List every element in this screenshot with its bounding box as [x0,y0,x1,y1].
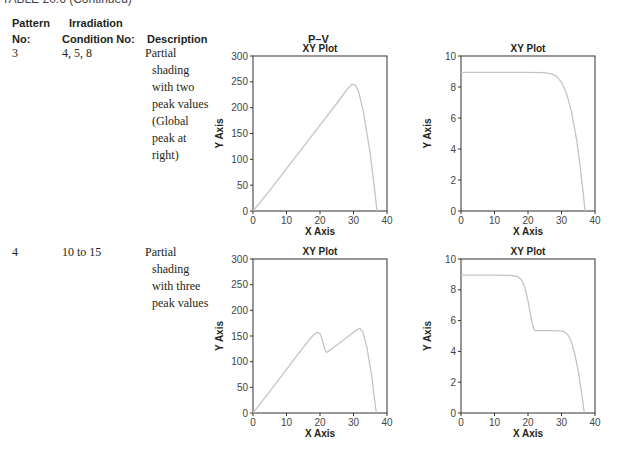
x-tick-label: 0 [250,417,256,428]
y-tick-label: 8 [450,82,456,93]
x-tick-label: 20 [314,215,326,226]
data-curve [461,72,585,211]
chart-title: XY Plot [303,43,338,54]
y-tick-label: 2 [450,175,456,186]
y-tick-label: 300 [231,51,248,62]
x-tick-label: 0 [458,215,464,226]
x-tick-label: 0 [458,417,464,428]
x-axis-label: X Axis [513,226,544,237]
y-tick-label: 2 [450,377,456,388]
x-tick-label: 20 [522,215,534,226]
x-tick-label: 20 [522,417,534,428]
y-tick-label: 150 [231,128,248,139]
chart-title: XY Plot [303,246,338,257]
x-tick-label: 10 [489,417,501,428]
y-tick-label: 150 [231,331,248,342]
chart-pattern4-iv: XY Plot0246810010203040X AxisY Axis [422,246,601,439]
x-tick-label: 40 [589,215,601,226]
y-tick-label: 6 [450,315,456,326]
x-tick-label: 10 [281,215,293,226]
chart-pattern4-pv: XY Plot050100150200250300010203040X Axis… [214,246,393,439]
x-tick-label: 10 [281,417,293,428]
y-tick-label: 10 [445,51,457,62]
y-tick-label: 4 [450,144,456,155]
y-tick-label: 100 [231,154,248,165]
x-tick-label: 30 [348,417,360,428]
data-curve [253,328,376,413]
chart-title: XY Plot [511,246,546,257]
plot-frame [461,259,595,413]
y-tick-label: 8 [450,284,456,295]
x-tick-label: 20 [314,417,326,428]
x-axis-label: X Axis [513,428,544,439]
x-axis-label: X Axis [305,428,336,439]
y-tick-label: 200 [231,305,248,316]
charts-canvas: XY Plot050100150200250300010203040X Axis… [0,0,631,452]
y-tick-label: 0 [242,206,248,217]
y-tick-label: 0 [450,408,456,419]
y-axis-label: Y Axis [422,321,433,351]
y-tick-label: 250 [231,76,248,87]
chart-title: XY Plot [511,43,546,54]
y-tick-label: 4 [450,346,456,357]
y-tick-label: 200 [231,102,248,113]
y-tick-label: 10 [445,254,457,265]
y-tick-label: 6 [450,113,456,124]
x-tick-label: 0 [250,215,256,226]
data-curve [461,275,584,413]
chart-pattern3-pv: XY Plot050100150200250300010203040X Axis… [214,43,393,237]
y-axis-label: Y Axis [214,118,225,148]
y-tick-label: 100 [231,356,248,367]
y-tick-label: 0 [450,206,456,217]
y-tick-label: 0 [242,408,248,419]
x-tick-label: 40 [381,215,393,226]
y-tick-label: 300 [231,254,248,265]
y-axis-label: Y Axis [214,321,225,351]
x-tick-label: 10 [489,215,501,226]
y-tick-label: 50 [237,180,249,191]
x-tick-label: 30 [348,215,360,226]
y-tick-label: 50 [237,382,249,393]
x-axis-label: X Axis [305,226,336,237]
plot-frame [253,259,387,413]
x-tick-label: 40 [381,417,393,428]
x-tick-label: 30 [556,417,568,428]
data-curve [253,84,377,211]
y-axis-label: Y Axis [422,118,433,148]
x-tick-label: 30 [556,215,568,226]
chart-pattern3-iv: XY Plot0246810010203040X AxisY Axis [422,43,601,237]
y-tick-label: 250 [231,279,248,290]
x-tick-label: 40 [589,417,601,428]
